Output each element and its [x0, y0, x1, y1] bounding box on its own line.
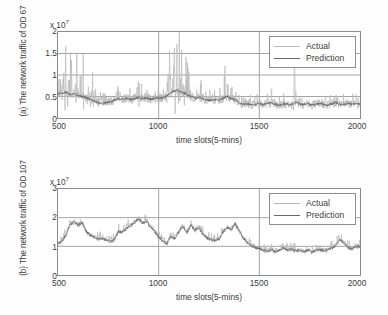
chart-panel-b: (b) The network traffic of OD 107 x 107 … — [0, 157, 388, 314]
panel-a-legend-row-actual: Actual — [274, 40, 350, 52]
panel-b-legend-label-prediction: Prediction — [306, 210, 344, 220]
panel-b-legend-row-prediction: Prediction — [274, 209, 350, 221]
panel-b-legend[interactable]: Actual Prediction — [269, 193, 356, 225]
panel-b-legend-swatch-actual — [274, 203, 300, 204]
chart-panel-a: (a) The network traffic of OD 67 x 107 0… — [0, 0, 388, 157]
panel-a-xtick-2: 1500 — [250, 121, 269, 131]
panel-b-x-axis-label: time slots(5-mins) — [57, 292, 361, 302]
panel-a-xtick-0: 500 — [52, 121, 66, 131]
panel-b-legend-swatch-prediction — [274, 215, 300, 216]
panel-b-xtick-1: 1000 — [149, 278, 168, 288]
panel-a-exponent-power: 7 — [65, 18, 68, 25]
panel-a-legend-swatch-prediction — [274, 58, 300, 59]
panel-a-legend[interactable]: Actual Prediction — [269, 36, 356, 68]
panel-a-ytick-1: 0.5 — [45, 92, 57, 102]
panel-b-xtick-3: 2000 — [348, 278, 367, 288]
panel-a-legend-row-prediction: Prediction — [274, 52, 350, 64]
panel-a-xtick-3: 2000 — [348, 121, 367, 131]
panel-a-ytick-3: 1.5 — [45, 48, 57, 58]
panel-b-y-axis-label: (b) The network traffic of OD 107 — [18, 148, 28, 288]
panel-a-y-axis-label: (a) The network traffic of OD 67 — [18, 0, 28, 131]
panel-b-exponent-power: 7 — [65, 175, 68, 182]
panel-b-legend-row-actual: Actual — [274, 197, 350, 209]
panel-b-xtick-0: 500 — [52, 278, 66, 288]
panel-a-legend-label-actual: Actual — [306, 41, 330, 51]
figure-container: (a) The network traffic of OD 67 x 107 0… — [0, 0, 388, 315]
panel-a-x-axis-label: time slots(5-mins) — [57, 135, 361, 145]
panel-a-xtick-1: 1000 — [149, 121, 168, 131]
panel-b-xtick-2: 1500 — [250, 278, 269, 288]
panel-a-legend-label-prediction: Prediction — [306, 53, 344, 63]
panel-a-legend-swatch-actual — [274, 46, 300, 47]
panel-b-legend-label-actual: Actual — [306, 198, 330, 208]
